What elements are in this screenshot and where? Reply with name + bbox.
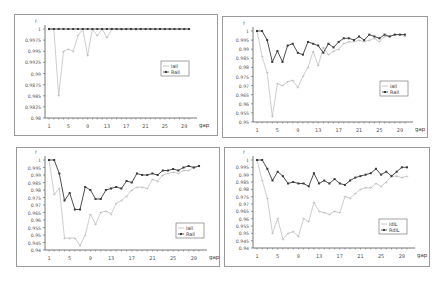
legend-label: Rall: [390, 90, 399, 95]
chart-4: 10.9950.990.9850.980.9750.970.9650.960.9…: [225, 148, 431, 268]
svg-text:+: +: [76, 33, 79, 38]
svg-text:+: +: [130, 188, 133, 193]
y-tick-label: 0.945: [28, 241, 41, 246]
x-tick-label: 5: [276, 127, 279, 133]
svg-text:+: +: [378, 39, 381, 44]
svg-text:+: +: [73, 236, 76, 241]
svg-text:+: +: [71, 49, 74, 54]
y-tick-label: 0.99: [239, 47, 249, 52]
svg-text:+: +: [140, 185, 143, 190]
svg-text:+: +: [104, 209, 107, 214]
svg-text:+: +: [99, 210, 102, 215]
svg-text:+: +: [312, 200, 315, 205]
x-tick-label: 25: [376, 127, 382, 133]
legend: IallRall: [161, 61, 189, 76]
svg-text:+: +: [63, 236, 66, 241]
svg-text:+: +: [266, 70, 269, 75]
svg-text:+: +: [171, 170, 174, 175]
svg-text:+: +: [297, 234, 300, 239]
svg-text:+: +: [364, 185, 367, 190]
y-tick-label: 0.95: [239, 120, 249, 125]
svg-text:+: +: [115, 201, 118, 206]
y-tick-label: 0.99: [31, 72, 41, 77]
x-tick-label: 21: [357, 253, 363, 259]
x-tick-label: 5: [67, 123, 70, 129]
svg-text:+: +: [177, 171, 180, 176]
svg-text:+: +: [271, 114, 274, 119]
legend-label: Iall: [171, 64, 178, 69]
x-tick-label: 29: [191, 255, 197, 261]
svg-text:+: +: [156, 179, 159, 184]
series-line-rall: [257, 31, 405, 62]
y-tick-label: 0.98: [239, 187, 249, 192]
svg-text:+: +: [357, 38, 360, 43]
legend: IallRall: [176, 223, 204, 238]
svg-text:+: +: [286, 231, 289, 236]
x-tick-label: 25: [170, 255, 176, 261]
x-tick-label: 29: [181, 123, 187, 129]
y-tick-label: 0.95: [239, 231, 249, 236]
y-tick-label: 0.995: [28, 49, 41, 54]
svg-text:+: +: [395, 174, 398, 179]
legend: IdlLRdlL: [379, 219, 407, 234]
y-tick-label: 0.955: [28, 226, 41, 231]
svg-text:+: +: [266, 196, 269, 201]
y-tick-label: 0.97: [239, 202, 249, 207]
chart-2: 10.9950.990.9850.980.9750.970.9650.960.9…: [223, 17, 429, 139]
svg-text:+: +: [332, 49, 335, 54]
svg-text:+: +: [67, 47, 70, 52]
svg-text:+: +: [166, 171, 169, 176]
y-tick-label: 0.97: [31, 203, 41, 208]
y-tick-label: 0.945: [236, 239, 249, 244]
svg-text:+: +: [292, 229, 295, 234]
x-tick-label: 9: [296, 127, 299, 133]
legend-label: RdlL: [389, 228, 400, 233]
y-tick-label: 0.975: [28, 196, 41, 201]
svg-text:+: +: [317, 209, 320, 214]
svg-text:+: +: [105, 35, 108, 40]
y-axis-label: f: [243, 150, 245, 155]
y-tick-label: 0.995: [236, 38, 249, 43]
x-axis-label: gap: [415, 126, 426, 133]
svg-text:+: +: [260, 54, 263, 59]
y-tick-label: 0.9875: [25, 83, 41, 88]
svg-text:+: +: [109, 212, 112, 217]
svg-text:+: +: [52, 192, 55, 197]
svg-text:+: +: [311, 49, 314, 54]
x-tick-label: 5: [276, 253, 279, 259]
legend-label: Rall: [186, 232, 195, 237]
y-tick-label: 0.955: [236, 224, 249, 229]
y-tick-label: 0.985: [28, 94, 41, 99]
svg-text:+: +: [182, 168, 185, 173]
x-tick-label: 29: [397, 127, 403, 133]
legend-label: Iall: [390, 84, 397, 89]
y-tick-label: 0.96: [239, 217, 249, 222]
svg-text:+: +: [291, 78, 294, 83]
svg-text:+: +: [368, 38, 371, 43]
y-axis-label: f: [243, 21, 245, 26]
y-tick-label: 0.965: [236, 209, 249, 214]
y-tick-label: 0.965: [236, 93, 249, 98]
chart-panel-4: 10.9950.990.9850.980.9750.970.9650.960.9…: [224, 147, 430, 267]
svg-text:+: +: [307, 219, 310, 224]
svg-text:+: +: [276, 81, 279, 86]
x-tick-label: 1: [47, 255, 50, 261]
x-tick-label: 25: [378, 253, 384, 259]
svg-text:+: +: [146, 186, 149, 191]
svg-text:+: +: [301, 74, 304, 79]
series-line-iall: [257, 31, 405, 117]
y-tick-label: 0.975: [236, 75, 249, 80]
series-line-rall: [49, 160, 199, 210]
x-tick-label: 1: [47, 123, 50, 129]
svg-text:+: +: [86, 53, 89, 58]
svg-text:+: +: [260, 178, 263, 183]
y-tick-label: 0.9825: [25, 105, 41, 110]
x-axis-label: gap: [209, 254, 220, 261]
y-tick-label: 0.985: [28, 181, 41, 186]
svg-text:+: +: [57, 93, 60, 98]
chart-3: 10.9950.990.9850.980.9750.970.9650.960.9…: [17, 148, 221, 268]
chart-1: 10.99750.9950.99250.990.98750.9850.98250…: [15, 15, 219, 137]
svg-text:+: +: [343, 194, 346, 199]
x-tick-label: 9: [89, 255, 92, 261]
svg-text:+: +: [89, 212, 92, 217]
